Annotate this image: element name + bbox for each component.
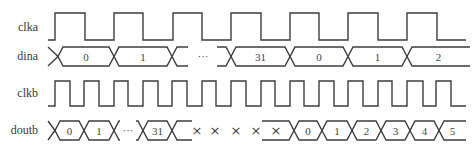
dina-ellipsis: ··· (198, 50, 209, 62)
doutb-value: 4 (422, 125, 428, 137)
unknown-state-mark: × (271, 123, 282, 138)
doutb-value: 1 (96, 125, 102, 137)
dina-value: 0 (83, 51, 89, 63)
unknown-state-mark: × (231, 123, 242, 138)
doutb-bus-segment (136, 121, 143, 140)
dina-bus-segment (217, 47, 231, 66)
clka-clock-path (48, 13, 466, 40)
dina-value: 31 (255, 51, 266, 63)
doutb-value: 0 (305, 125, 311, 137)
dina-bus-segment (172, 47, 188, 66)
signal-labels: clka dina clkb doutb (11, 20, 39, 137)
doutb-value: 1 (334, 125, 340, 137)
dina-value: 1 (375, 51, 381, 63)
unknown-state-mark: × (251, 123, 262, 138)
clka-waveform (48, 13, 466, 40)
doutb-bus: 01···31012345××××× (48, 121, 466, 140)
clkb-clock-path (48, 81, 466, 106)
doutb-value: 2 (364, 125, 370, 137)
unknown-state-mark: × (192, 123, 203, 138)
doutb-value: 0 (67, 125, 73, 137)
doutb-value: 5 (450, 125, 456, 137)
doutb-ellipsis: ··· (123, 124, 134, 136)
dina-value: 2 (436, 51, 442, 63)
timing-diagram: clka dina clkb doutb 01···31012 01···310… (0, 0, 476, 153)
doutb-value: 3 (393, 125, 399, 137)
label-clka: clka (18, 20, 39, 34)
doutb-value: 31 (152, 125, 163, 137)
label-dina: dina (17, 49, 38, 63)
dina-value: 1 (140, 51, 146, 63)
doutb-bus-segment (172, 121, 192, 140)
dina-bus-segment (48, 47, 58, 66)
dina-bus: 01···31012 (48, 47, 470, 66)
dina-value: 0 (316, 51, 322, 63)
label-doutb: doutb (11, 123, 38, 137)
unknown-state-mark: × (210, 123, 221, 138)
label-clkb: clkb (17, 86, 38, 100)
doutb-bus-segment (114, 121, 120, 140)
clkb-waveform (48, 81, 466, 106)
doutb-bus-segment (48, 121, 55, 140)
